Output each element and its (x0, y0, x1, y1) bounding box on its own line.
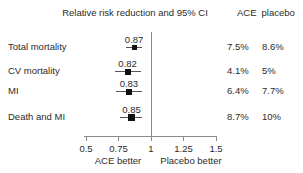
axis-tick-label: 1.25 (170, 143, 198, 154)
column-headers: ACE placebo (237, 7, 295, 18)
rr-marker (126, 89, 132, 95)
ace-percent: 8.7% (227, 111, 249, 122)
axis-tick (183, 136, 184, 141)
reference-line (151, 32, 152, 136)
ace-percent: 6.4% (227, 85, 249, 96)
axis-tick (118, 136, 119, 141)
axis-tick (151, 136, 152, 141)
axis-tick-label: 1.5 (202, 143, 230, 154)
placebo-column-header: placebo (262, 7, 295, 18)
row-label: Total mortality (8, 41, 67, 52)
forest-plot: Relative risk reduction and 95% CI ACE p… (0, 0, 303, 173)
rr-value-label: 0.87 (114, 34, 154, 45)
row-label: MI (8, 85, 19, 96)
ace-percent: 7.5% (227, 41, 249, 52)
axis-tick-label: 0.75 (105, 143, 133, 154)
rr-value-label: 0.83 (109, 78, 149, 89)
placebo-percent: 7.7% (262, 85, 284, 96)
rr-marker (132, 45, 137, 50)
axis-tick-label: 1 (137, 143, 165, 154)
ace-column-header: ACE (237, 7, 257, 18)
rr-marker (128, 114, 135, 121)
chart-title: Relative risk reduction and 95% CI (30, 7, 240, 18)
row-label: CV mortality (8, 65, 60, 76)
rr-marker (125, 69, 131, 75)
placebo-better-label: Placebo better (146, 155, 236, 166)
rr-value-label: 0.85 (112, 104, 152, 115)
axis-tick-label: 0.5 (72, 143, 100, 154)
placebo-percent: 8.6% (262, 41, 284, 52)
axis-tick (216, 136, 217, 141)
axis-tick (86, 136, 87, 141)
row-label: Death and MI (8, 111, 65, 122)
placebo-percent: 10% (262, 111, 281, 122)
ace-percent: 4.1% (227, 65, 249, 76)
rr-value-label: 0.82 (108, 58, 148, 69)
placebo-percent: 5% (262, 65, 276, 76)
